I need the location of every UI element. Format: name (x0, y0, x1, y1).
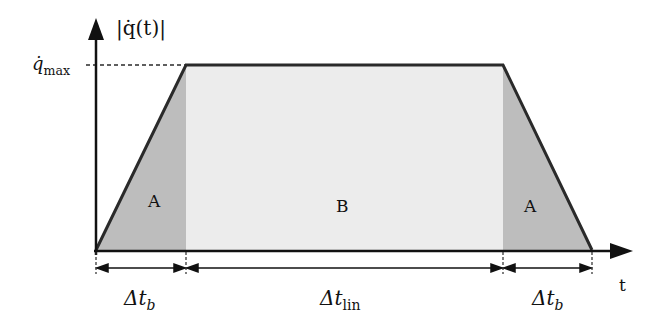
qmax-subscript: max (44, 63, 71, 78)
diagram-canvas (0, 0, 664, 322)
interval-symbol: Δt (124, 286, 146, 310)
qmax-label: q̇max (32, 53, 70, 78)
region-b (186, 65, 503, 250)
interval-arrows (97, 264, 591, 272)
interval-symbol: Δt (532, 286, 554, 310)
qmax-symbol: q̇ (32, 53, 44, 74)
interval-subscript: b (554, 297, 563, 313)
interval-subscript: b (146, 297, 155, 313)
y-axis-label: |q̇(t)| (116, 16, 166, 40)
interval-label-tb-right: Δtb (532, 286, 563, 313)
x-axis-label: t (619, 275, 626, 295)
interval-label-tlin: Δtlin (320, 286, 360, 313)
interval-subscript: lin (342, 297, 360, 313)
interval-symbol: Δt (320, 286, 342, 310)
region-a-left-label: A (148, 191, 160, 211)
region-a-right-label: A (524, 196, 536, 216)
y-axis-arrow-icon (88, 18, 104, 40)
region-b-label: B (336, 196, 349, 216)
x-axis-arrow-icon (610, 243, 633, 259)
interval-label-tb-left: Δtb (124, 286, 155, 313)
